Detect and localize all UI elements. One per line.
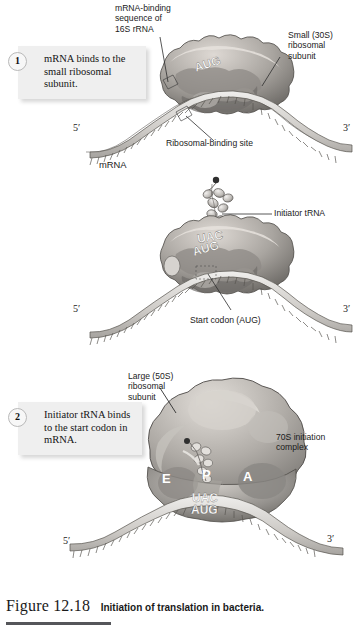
label-initiator-trna: Initiator tRNA: [274, 208, 325, 218]
caption-rule: [6, 622, 111, 625]
panel-step-1: AUG 1 mRNA binds to the small ribosomal …: [0, 0, 361, 180]
label-70s-initiation-complex: 70S initiation complex: [276, 432, 325, 453]
label-large-50s-subunit: Large (50S) ribosomal subunit: [128, 371, 173, 402]
illustration-step-3: E P A UAC AUG: [0, 355, 361, 560]
label-three-prime-1: 3′: [343, 122, 350, 133]
site-label-a: A: [243, 469, 253, 484]
label-small-30s-subunit: Small (30S) ribosomal subunit: [288, 30, 333, 61]
site-label-p: P: [202, 467, 211, 482]
label-five-prime-3: 5′: [63, 535, 70, 546]
panel-step-2: UAC AUG 2 Initiator tRNA binds to the st…: [0, 170, 361, 360]
label-ribosomal-binding-site: Ribosomal-binding site: [166, 138, 253, 148]
label-five-prime-1: 5′: [73, 122, 80, 133]
codon-aug-label-3: AUG: [191, 503, 218, 517]
site-label-e: E: [162, 471, 171, 486]
step-number-1: 1: [8, 52, 27, 71]
label-five-prime-2: 5′: [73, 303, 80, 314]
label-mrna: mRNA: [99, 160, 127, 170]
trna-amino-acid-bead: [213, 177, 219, 183]
figure-caption-text: Initiation of translation in bacteria.: [101, 602, 264, 613]
panel-step-3: E P A UAC AUG 3 Large ribosomal subunit …: [0, 355, 361, 560]
figure-translation-initiation: AUG 1 mRNA binds to the small ribosomal …: [0, 0, 361, 629]
label-mrna-binding-sequence: mRNA-binding sequence of 16S rRNA: [115, 3, 171, 34]
figure-caption: Figure 12.18 Initiation of translation i…: [6, 597, 356, 615]
figure-number: Figure 12.18: [6, 597, 90, 614]
label-three-prime-3: 3′: [327, 533, 334, 544]
step-text-1: mRNA binds to the small ribosomal subuni…: [44, 53, 125, 89]
label-three-prime-2: 3′: [343, 303, 350, 314]
label-start-codon: Start codon (AUG): [190, 315, 261, 325]
illustration-step-2: UAC AUG: [0, 170, 361, 360]
step-callout-1: 1 mRNA binds to the small ribosomal subu…: [18, 46, 146, 99]
